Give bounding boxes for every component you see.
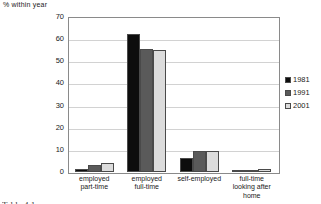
bar-group	[173, 17, 226, 172]
x-axis-category-label: full-time looking after home	[226, 175, 279, 200]
bar-group	[68, 17, 121, 172]
bar	[258, 169, 271, 172]
legend-swatch-icon	[285, 90, 291, 96]
legend-label: 1981	[293, 76, 310, 84]
y-axis-label: % within year	[3, 1, 47, 8]
x-axis-category-label: employed full-time	[121, 175, 174, 200]
y-tick-label: 50	[4, 57, 64, 65]
legend-item: 2001	[285, 102, 310, 110]
y-tick-label: 20	[4, 124, 64, 132]
legend-item: 1981	[285, 76, 310, 84]
bar	[75, 169, 88, 172]
bar	[180, 158, 193, 172]
y-tick-label: 0	[4, 168, 64, 176]
legend-swatch-icon	[285, 103, 291, 109]
legend-label: 1991	[293, 89, 310, 97]
bar-group	[121, 17, 174, 172]
legend-label: 2001	[293, 102, 310, 110]
bar-group	[226, 17, 279, 172]
x-axis-labels: employed part-timeemployed full-timeself…	[68, 175, 278, 200]
bar	[101, 163, 114, 172]
bar	[140, 49, 153, 172]
bar	[245, 170, 258, 172]
y-tick-label: 10	[4, 146, 64, 154]
footer-text-fragment: Table 4.1	[2, 200, 58, 204]
legend: 198119912001	[285, 76, 310, 110]
y-tick-label: 40	[4, 79, 64, 87]
bar	[88, 165, 101, 172]
bar	[206, 151, 219, 172]
y-tick-label: 30	[4, 102, 64, 110]
bar	[127, 34, 140, 172]
x-axis-category-label: employed part-time	[68, 175, 121, 200]
legend-swatch-icon	[285, 77, 291, 83]
legend-item: 1991	[285, 89, 310, 97]
bar	[153, 50, 166, 172]
x-axis-category-label: self-employed	[173, 175, 226, 200]
bars-layer	[68, 17, 278, 172]
bar	[193, 151, 206, 172]
y-tick-label: 70	[4, 13, 64, 21]
bar	[232, 170, 245, 172]
y-axis-ticks: 706050403020100	[0, 17, 64, 172]
y-tick-label: 60	[4, 35, 64, 43]
